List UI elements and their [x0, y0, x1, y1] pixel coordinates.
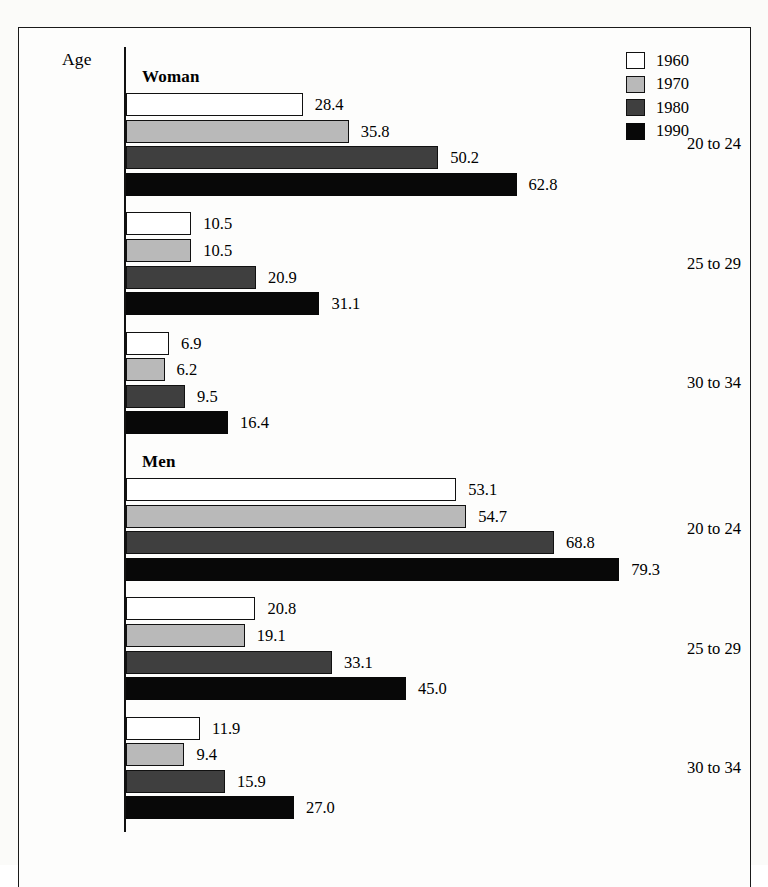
bar-woman-20-to-24-1970	[126, 120, 349, 143]
bar-value-label: 79.3	[631, 558, 660, 581]
bar-value-label: 16.4	[240, 411, 269, 434]
bar-men-30-to-34-1970	[126, 743, 184, 766]
category-label: 20 to 24	[651, 519, 751, 539]
legend-item-1980[interactable]: 1980	[626, 96, 738, 120]
bar-men-20-to-24-1980	[126, 531, 554, 554]
bar-value-label: 15.9	[237, 770, 266, 793]
bar-value-label: 54.7	[478, 505, 507, 528]
panel-title-women: Woman	[142, 67, 200, 87]
bar-men-20-to-24-1970	[126, 505, 466, 528]
bar-men-25-to-29-1970	[126, 624, 245, 647]
bar-value-label: 35.8	[361, 120, 390, 143]
bar-woman-25-to-29-1990	[126, 292, 319, 315]
bar-value-label: 62.8	[529, 173, 558, 196]
bar-men-30-to-34-1990	[126, 796, 294, 819]
bar-value-label: 9.5	[197, 385, 218, 408]
category-label: 30 to 34	[651, 758, 751, 778]
legend-label: 1960	[656, 53, 689, 70]
category-label: 30 to 34	[651, 373, 751, 393]
bar-woman-20-to-24-1960	[126, 93, 303, 116]
plot-area: Age Woman Men 20 to 2428.435.850.262.825…	[18, 27, 751, 865]
legend-item-1970[interactable]: 1970	[626, 73, 738, 97]
bar-woman-25-to-29-1980	[126, 266, 256, 289]
chart-legend: 1960197019801990	[626, 49, 738, 143]
bar-men-25-to-29-1990	[126, 677, 406, 700]
bar-woman-20-to-24-1990	[126, 173, 517, 196]
category-label: 25 to 29	[651, 639, 751, 659]
bar-value-label: 10.5	[203, 212, 232, 235]
legend-swatch-icon	[626, 123, 645, 140]
bar-men-30-to-34-1980	[126, 770, 225, 793]
bar-value-label: 53.1	[468, 478, 497, 501]
bar-value-label: 6.9	[181, 332, 202, 355]
bar-value-label: 27.0	[306, 796, 335, 819]
axis-label-age: Age	[62, 49, 92, 70]
bar-value-label: 50.2	[450, 146, 479, 169]
legend-item-1990[interactable]: 1990	[626, 120, 738, 144]
bar-value-label: 20.8	[267, 597, 296, 620]
bar-value-label: 11.9	[212, 717, 240, 740]
category-label: 25 to 29	[651, 254, 751, 274]
legend-swatch-icon	[626, 52, 645, 69]
legend-swatch-icon	[626, 99, 645, 116]
legend-label: 1970	[656, 76, 689, 93]
bar-men-25-to-29-1980	[126, 651, 332, 674]
bar-value-label: 6.2	[177, 358, 198, 381]
bar-woman-30-to-34-1960	[126, 332, 169, 355]
bar-men-30-to-34-1960	[126, 717, 200, 740]
bar-woman-30-to-34-1990	[126, 411, 228, 434]
bar-woman-30-to-34-1970	[126, 358, 165, 381]
bar-value-label: 68.8	[566, 531, 595, 554]
legend-swatch-icon	[626, 76, 645, 93]
panel-title-men: Men	[142, 452, 176, 472]
bar-men-25-to-29-1960	[126, 597, 255, 620]
bar-men-20-to-24-1990	[126, 558, 619, 581]
bar-woman-25-to-29-1970	[126, 239, 191, 262]
bar-value-label: 9.4	[196, 743, 217, 766]
bar-woman-20-to-24-1980	[126, 146, 438, 169]
bar-value-label: 19.1	[257, 624, 286, 647]
bar-value-label: 33.1	[344, 651, 373, 674]
bar-value-label: 10.5	[203, 239, 232, 262]
legend-label: 1980	[656, 100, 689, 117]
bar-value-label: 45.0	[418, 677, 447, 700]
legend-item-1960[interactable]: 1960	[626, 49, 738, 73]
bar-woman-25-to-29-1960	[126, 212, 191, 235]
bar-value-label: 31.1	[331, 292, 360, 315]
bar-woman-30-to-34-1980	[126, 385, 185, 408]
bar-value-label: 28.4	[315, 93, 344, 116]
bar-value-label: 20.9	[268, 266, 297, 289]
bar-men-20-to-24-1960	[126, 478, 456, 501]
legend-label: 1990	[656, 123, 689, 140]
